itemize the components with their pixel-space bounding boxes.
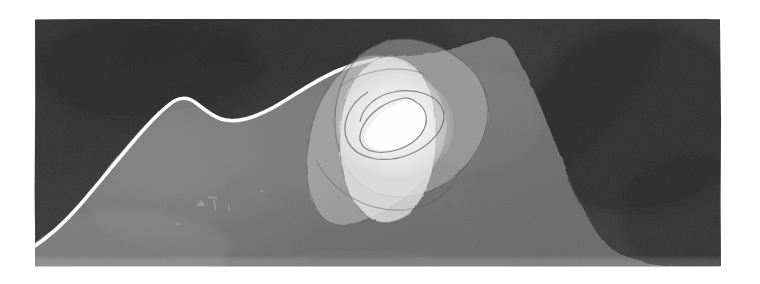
paper-sheet — [10, 12, 760, 284]
paper-grain — [28, 12, 734, 276]
artwork-svg — [0, 0, 760, 284]
artwork-canvas: Abstract Monochrome Landscape with Neste… — [0, 0, 760, 284]
